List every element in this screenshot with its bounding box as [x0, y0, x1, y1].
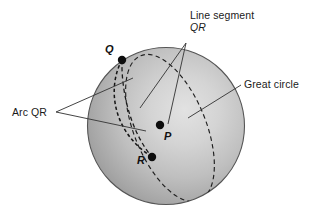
point-p-dot — [156, 121, 164, 129]
sphere-geometry-figure: Line segment QR Arc QR Great circle Q P … — [0, 0, 314, 218]
label-great-circle: Great circle — [244, 78, 299, 91]
label-point-q: Q — [105, 44, 114, 55]
label-line-segment-line2: QR — [190, 21, 206, 34]
label-line-segment-line1: Line segment — [190, 9, 254, 22]
label-point-r: R — [137, 155, 145, 166]
label-point-p: P — [164, 131, 171, 142]
figure-canvas — [0, 0, 314, 218]
point-q-dot — [118, 56, 126, 64]
point-r-dot — [148, 153, 156, 161]
label-arc-qr: Arc QR — [12, 106, 47, 119]
